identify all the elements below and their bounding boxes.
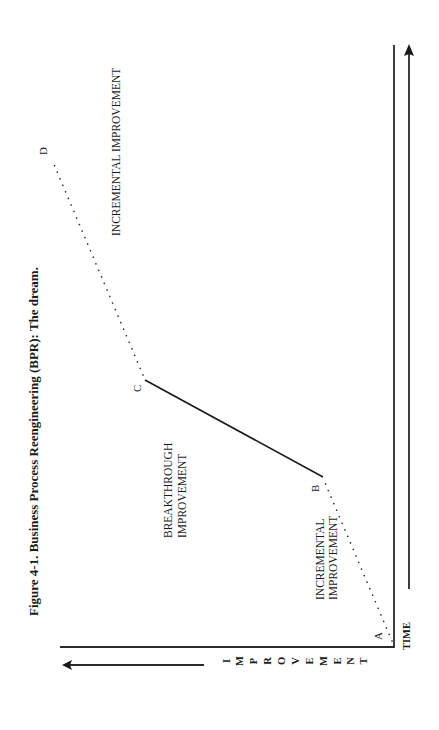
annotation-breakthrough: BREAKTHROUGH IMPROVEMENT [162,443,188,538]
y-axis-label: I M P R O V E M E N T [221,656,369,666]
segment-c-d [53,162,143,375]
annotation-incremental-upper: INCREMENTAL IMPROVEMENT [110,68,122,236]
svg-text:BREAKTHROUGH: BREAKTHROUGH [162,443,174,538]
point-label-d: D [37,147,49,155]
svg-text:V: V [290,657,301,665]
x-axis-label: TIME [401,622,412,650]
svg-text:R: R [262,657,273,665]
svg-text:M: M [234,656,245,666]
svg-text:N: N [345,657,356,665]
svg-text:IMPROVEMENT: IMPROVEMENT [327,516,339,600]
svg-text:T: T [358,657,369,664]
svg-text:E: E [332,657,343,664]
svg-text:M: M [318,656,329,666]
svg-text:I: I [221,659,232,663]
svg-text:IMPROVEMENT: IMPROVEMENT [176,454,188,538]
annotation-incremental-lower: INCREMENTAL IMPROVEMENT [314,516,339,600]
point-label-c: C [131,385,143,392]
figure-title: Figure 4-1. Business Process Reengineeri… [26,267,41,616]
svg-text:O: O [276,657,287,665]
point-label-b: B [309,485,321,492]
point-label-a: A [372,632,384,640]
svg-text:E: E [304,657,315,664]
svg-text:INCREMENTAL: INCREMENTAL [314,519,326,601]
bpr-diagram: Figure 4-1. Business Process Reengineeri… [0,0,439,730]
svg-text:P: P [248,657,259,664]
